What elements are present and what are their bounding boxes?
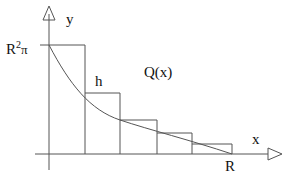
curve-q bbox=[49, 45, 232, 154]
diagram-graphics bbox=[0, 0, 287, 181]
step-rectangles bbox=[49, 45, 232, 154]
step-label: h bbox=[95, 74, 103, 89]
diagram: y x R2π h Q(x) R bbox=[0, 0, 287, 181]
step-rectangle bbox=[120, 120, 157, 154]
y-max-base: R bbox=[6, 41, 16, 57]
y-max-label: R2π bbox=[6, 40, 28, 57]
curve-label: Q(x) bbox=[144, 65, 172, 80]
x-axis-label: x bbox=[252, 132, 260, 147]
step-rectangle bbox=[49, 45, 85, 154]
y-max-pi: π bbox=[21, 42, 28, 57]
y-axis-label: y bbox=[66, 12, 74, 27]
x-end-label: R bbox=[225, 159, 235, 174]
x-axis-arrow-icon bbox=[268, 148, 282, 160]
